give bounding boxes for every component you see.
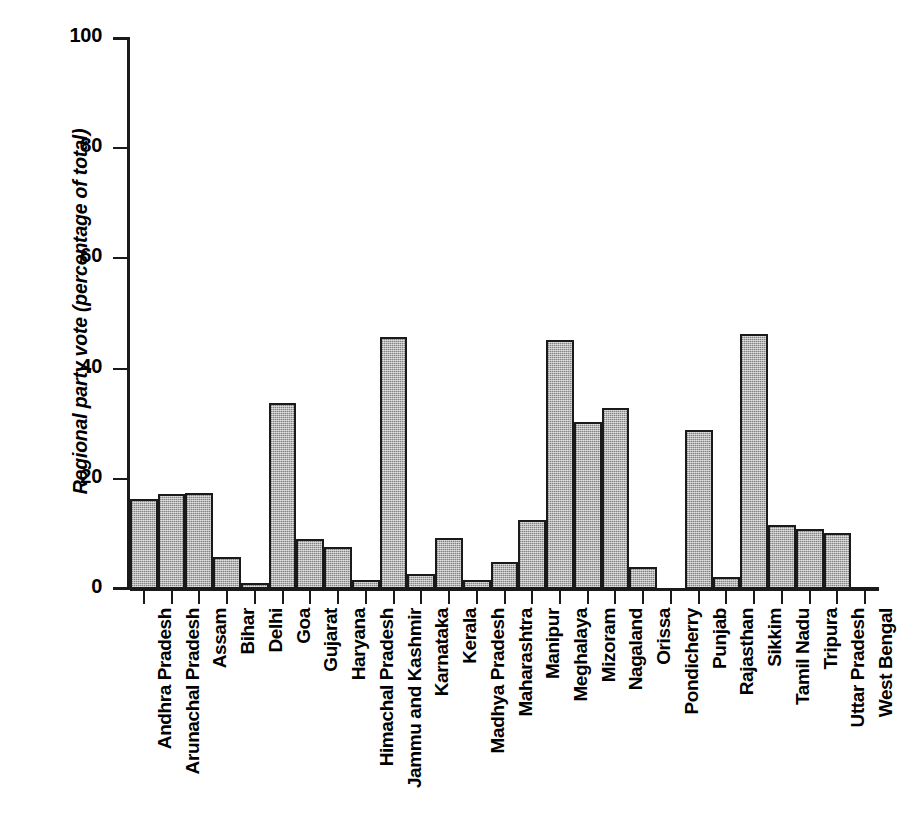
x-tick-0 [143,590,145,604]
x-tick-11 [448,590,450,604]
x-tick-8 [365,590,367,604]
x-tick-label-manipur: Manipur [541,608,565,679]
x-tick-label-text: Rajasthan [735,608,759,695]
bar-punjab [685,430,713,589]
x-tick-label-nagaland: Nagaland [624,608,648,690]
bar-delhi [241,583,269,589]
x-tick-label-mizoram: Mizoram [597,608,621,682]
x-tick-6 [309,590,311,604]
bar-haryana [324,547,352,589]
x-tick-label-text: Tripura [819,608,843,670]
x-tick-label-assam: Assam [208,608,232,668]
bar-goa [269,403,297,589]
x-tick-label-text: Delhi [264,608,288,652]
x-tick-label-text: Andhra Pradesh [153,608,177,749]
x-tick-label-meghalaya: Meghalaya [569,608,593,702]
x-tick-label-text: Jammu and Kashmir [403,608,427,788]
x-tick-14 [531,590,533,604]
x-tick-label-text: Assam [208,608,232,668]
x-tick-17 [614,590,616,604]
x-tick-9 [393,590,395,604]
bar-west-bengal [851,587,879,591]
bar-madhya-pradesh [463,580,491,589]
x-tick-label-text: Madhya Pradesh [486,608,510,753]
bar-jammu-and-kashmir [380,337,408,589]
x-tick-label-kerala: Kerala [458,608,482,664]
bar-tamil-nadu [768,525,796,589]
x-tick-label-text: Gujarat [319,608,343,672]
y-tick-label-text: 100 [42,24,102,47]
x-tick-20 [698,590,700,604]
x-tick-12 [476,590,478,604]
x-tick-label-gujarat: Gujarat [319,608,343,672]
bar-rajasthan [713,577,741,589]
x-tick-label-delhi: Delhi [264,608,288,652]
x-tick-25 [836,590,838,604]
x-tick-label-jammu-and-kashmir: Jammu and Kashmir [403,608,427,788]
x-tick-label-text: Nagaland [624,608,648,690]
x-tick-label-text: Manipur [541,608,565,679]
x-tick-label-madhya-pradesh: Madhya Pradesh [486,608,510,753]
x-tick-label-haryana: Haryana [347,608,371,680]
x-tick-label-maharashtra: Maharashtra [514,608,538,717]
bar-mizoram [574,422,602,589]
x-tick-22 [753,590,755,604]
x-tick-label-sikkim: Sikkim [763,608,787,667]
bar-meghalaya [546,340,574,589]
x-tick-label-text: Maharashtra [514,608,538,717]
x-tick-10 [420,590,422,604]
y-tick-60 [113,257,128,259]
x-tick-label-text: Kerala [458,608,482,664]
x-tick-label-karnataka: Karnataka [430,608,454,696]
x-tick-label-bihar: Bihar [236,608,260,655]
x-tick-label-uttar-pradesh: Uttar Pradesh [846,608,870,727]
x-tick-7 [337,590,339,604]
x-tick-label-text: Haryana [347,608,371,680]
x-tick-label-orissa: Orissa [652,608,676,665]
x-tick-4 [254,590,256,604]
x-tick-label-text: Pondicherry [680,608,704,714]
bar-andhra-pradesh [130,499,158,589]
bar-tripura [796,529,824,589]
x-tick-label-tamil-nadu: Tamil Nadu [791,608,815,705]
x-tick-label-text: Arunachal Pradesh [181,608,205,774]
x-tick-18 [642,590,644,604]
y-tick-100 [113,37,128,39]
x-tick-label-punjab: Punjab [708,608,732,669]
y-tick-label-text: 0 [42,575,102,598]
bar-manipur [518,520,546,589]
bar-karnataka [407,574,435,589]
x-tick-label-text: Mizoram [597,608,621,682]
y-tick-label-text: 60 [42,244,102,267]
x-tick-label-text: Orissa [652,608,676,665]
bar-uttar-pradesh [824,533,852,589]
x-tick-26 [864,590,866,604]
bar-gujarat [296,539,324,589]
x-tick-label-text: West Bengal [874,608,898,717]
x-tick-label-rajasthan: Rajasthan [735,608,759,695]
y-tick-20 [113,478,128,480]
x-tick-19 [670,590,672,604]
x-tick-13 [504,590,506,604]
bar-kerala [435,538,463,589]
y-axis-label: Regional party vote (percentage of total… [69,52,92,572]
x-tick-21 [725,590,727,604]
bar-himachal-pradesh [352,580,380,589]
x-tick-3 [226,590,228,604]
x-tick-label-himachal-pradesh: Himachal Pradesh [375,608,399,766]
x-tick-label-text: Meghalaya [569,608,593,702]
x-tick-15 [559,590,561,604]
y-tick-40 [113,368,128,370]
x-tick-label-text: Sikkim [763,608,787,667]
bar-sikkim [740,334,768,589]
y-tick-80 [113,147,128,149]
x-tick-label-west-bengal: West Bengal [874,608,898,717]
bar-orissa [629,567,657,589]
bar-assam [185,493,213,589]
x-tick-label-pondicherry: Pondicherry [680,608,704,714]
x-tick-label-goa: Goa [292,608,316,644]
y-tick-label-text: 20 [42,465,102,488]
x-tick-5 [282,590,284,604]
x-tick-label-andhra-pradesh: Andhra Pradesh [153,608,177,749]
